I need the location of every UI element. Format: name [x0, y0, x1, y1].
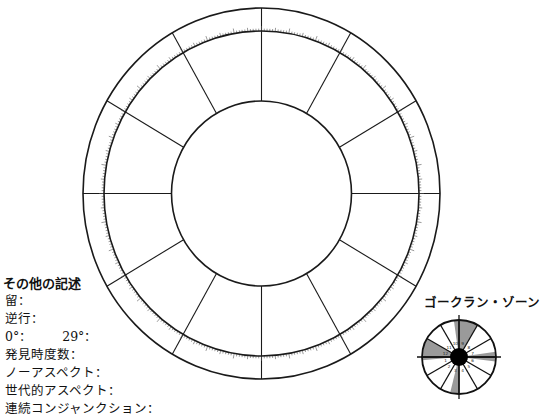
sector-number: 7 — [471, 351, 474, 356]
sector-number: 8 — [468, 345, 471, 350]
note-stellium: 連続コンジャンクション： — [3, 400, 160, 418]
sector-number: 2 — [448, 364, 451, 369]
sector-number: 11 — [446, 345, 452, 350]
note-discovery-degree: 発見時度数： — [3, 346, 160, 364]
gauquelin-center-hub — [450, 348, 468, 366]
sector-number: 1 — [444, 358, 447, 363]
sector-number: 3 — [454, 368, 457, 373]
note-no-aspect: ノーアスペクト： — [3, 364, 160, 382]
sector-number: 10 — [453, 341, 459, 346]
note-generational-aspect: 世代的アスペクト： — [3, 382, 160, 400]
note-critical-degrees: 0°：29°： — [3, 328, 160, 346]
sector-number: 9 — [461, 341, 464, 346]
sector-number: 12 — [443, 351, 449, 356]
gauquelin-zone-title: ゴークラン・ゾーン — [424, 292, 540, 311]
notes-title: その他の記述 — [3, 275, 160, 292]
note-stations: 留： — [3, 292, 160, 310]
sector-number: 4 — [461, 368, 464, 373]
gauquelin-zone-wheel: 123456789101112 — [417, 315, 501, 399]
sector-number: 6 — [471, 358, 474, 363]
other-notes-panel: その他の記述 留： 逆行： 0°：29°： 発見時度数： ノーアスペクト： 世代… — [3, 275, 160, 418]
note-retrograde: 逆行： — [3, 310, 160, 328]
inner-circle — [172, 101, 352, 286]
sector-number: 5 — [468, 364, 471, 369]
